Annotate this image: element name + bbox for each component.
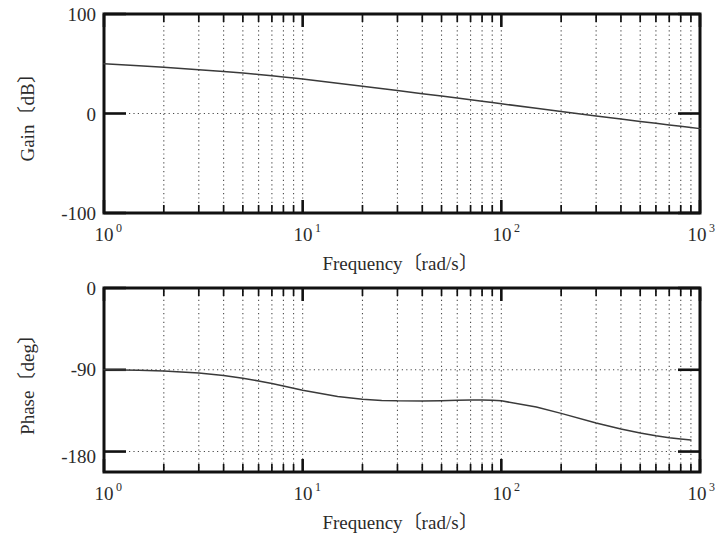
gain-xtick-base-1000: 10: [688, 224, 707, 245]
gain-ytick-label-0: 0: [87, 104, 97, 125]
gain-xtick-exp-1000: 3: [709, 221, 715, 235]
phase-xtick-exp-100: 2: [514, 480, 520, 494]
gain-y-axis-title: Gain〔dB〕: [17, 64, 38, 161]
phase-ytick-label-minus180: -180: [61, 446, 96, 467]
gain-curve: [104, 64, 700, 129]
bode-plot-svg: 100 0 -100 10 0 10 1 10 2 10 3 Gain〔dB〕: [0, 0, 722, 550]
phase-xtick-base-1000: 10: [688, 483, 707, 504]
gain-grid: [107, 17, 697, 210]
gain-xtick-base-100: 10: [493, 224, 512, 245]
gain-ytick-label-minus100: -100: [61, 203, 96, 224]
phase-ticks: [104, 288, 700, 472]
phase-grid: [107, 291, 697, 469]
gain-xtick-exp-10: 1: [315, 221, 321, 235]
gain-xtick-exp-100: 2: [514, 221, 520, 235]
bode-plot-figure: 100 0 -100 10 0 10 1 10 2 10 3 Gain〔dB〕: [0, 0, 722, 550]
gain-xtick-label-10: 10 1: [294, 221, 322, 245]
phase-xtick-exp-10: 1: [315, 480, 321, 494]
gain-xtick-base-1: 10: [95, 224, 114, 245]
phase-xtick-exp-1: 0: [116, 480, 122, 494]
phase-xtick-base-10: 10: [294, 483, 313, 504]
gain-ytick-label-100: 100: [68, 4, 97, 25]
gain-x-axis-title: Frequency〔rad/s〕: [322, 253, 477, 274]
phase-ytick-label-minus90: -90: [71, 359, 96, 380]
gain-xtick-label-1: 10 0: [95, 221, 123, 245]
phase-xtick-label-10: 10 1: [294, 480, 322, 504]
gain-xtick-label-1000: 10 3: [688, 221, 716, 245]
phase-xtick-base-100: 10: [493, 483, 512, 504]
phase-ytick-label-0: 0: [87, 278, 97, 299]
gain-xtick-exp-1: 0: [116, 221, 122, 235]
phase-xtick-label-1000: 10 3: [688, 480, 716, 504]
gain-xtick-label-100: 10 2: [493, 221, 521, 245]
gain-xtick-base-10: 10: [294, 224, 313, 245]
phase-xtick-exp-1000: 3: [709, 480, 715, 494]
phase-x-axis-title: Frequency〔rad/s〕: [322, 512, 477, 533]
phase-plot-frame: [104, 288, 700, 472]
gain-panel: 100 0 -100 10 0 10 1 10 2 10 3 Gain〔dB〕: [17, 4, 715, 274]
phase-curve: [104, 370, 691, 440]
phase-y-axis-title: Phase〔deg〕: [17, 325, 38, 435]
phase-xtick-label-1: 10 0: [95, 480, 123, 504]
phase-panel: 0 -90 -180 10 0 10 1 10 2 10 3 Phase〔deg…: [17, 278, 715, 533]
phase-xtick-base-1: 10: [95, 483, 114, 504]
phase-xtick-label-100: 10 2: [493, 480, 521, 504]
